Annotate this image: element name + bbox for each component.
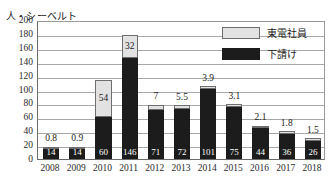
bar-group[interactable]: 140.8 (43, 149, 59, 159)
x-axis-tick-label: 2016 (250, 164, 269, 174)
bar-value-label-tepco-employee: 7 (153, 92, 158, 102)
bar-value-label-subcontractor: 44 (256, 148, 265, 157)
bar-value-label-tepco-employee: 0.8 (45, 134, 57, 144)
x-axis-tick-label: 2013 (172, 164, 191, 174)
y-axis-tick-label: 140 (19, 58, 33, 68)
bar-value-label-tepco-employee: 3.1 (228, 92, 240, 102)
bar-segment-tepco-employee (252, 126, 268, 129)
bar-group[interactable]: 753.1 (226, 105, 242, 159)
bar-value-label-subcontractor: 72 (177, 148, 186, 157)
x-axis-tick-label: 2008 (41, 164, 60, 174)
y-axis-tick-labels: 020406080100120140160180200 (0, 21, 35, 160)
x-axis-tick-label: 2009 (67, 164, 86, 174)
y-axis-tick-label: 160 (19, 44, 33, 54)
bar-value-label-subcontractor: 26 (308, 148, 317, 157)
bar-value-label-subcontractor: 101 (201, 148, 215, 157)
bar-value-label-tepco-employee: 54 (99, 94, 109, 104)
bar-segment-tepco-employee (226, 104, 242, 107)
bar-value-label-subcontractor: 146 (123, 148, 137, 157)
bar-segment-tepco-employee (305, 138, 321, 141)
x-axis-tick-label: 2018 (302, 164, 321, 174)
y-axis-tick-label: 100 (19, 86, 33, 96)
bar-value-label-subcontractor: 75 (230, 148, 239, 157)
bar-value-label-subcontractor: 36 (282, 148, 291, 157)
x-axis-tick-label: 2011 (119, 164, 138, 174)
bar-value-label-tepco-employee: 32 (125, 42, 135, 52)
bar-value-label-subcontractor: 14 (73, 148, 82, 157)
bar-value-label-tepco-employee: 1.5 (307, 126, 319, 136)
legend-item[interactable]: 東電社員 (222, 25, 307, 40)
bar-group[interactable]: 14632 (122, 35, 138, 159)
y-axis-tick-label: 200 (19, 16, 33, 26)
legend-label: 下請け (267, 46, 297, 61)
y-axis-tick-label: 60 (24, 114, 34, 124)
legend-swatch-icon (222, 48, 260, 60)
x-axis-tick-label: 2010 (93, 164, 112, 174)
bar-group[interactable]: 140.9 (69, 149, 85, 159)
y-axis-tick-label: 120 (19, 72, 33, 82)
legend-item[interactable]: 下請け (222, 46, 307, 61)
y-axis-tick-label: 0 (28, 155, 33, 165)
x-axis-tick-label: 2012 (145, 164, 164, 174)
bar-segment-tepco-employee (174, 105, 190, 109)
bar-value-label-tepco-employee: 0.9 (71, 134, 83, 144)
bar-value-label-tepco-employee: 2.1 (255, 113, 267, 123)
y-axis-tick-label: 80 (24, 100, 34, 110)
x-axis-tick-label: 2017 (276, 164, 295, 174)
bar-value-label-subcontractor: 60 (99, 148, 108, 157)
bar-value-label-subcontractor: 71 (151, 148, 160, 157)
y-axis-tick-label: 20 (24, 141, 34, 151)
bar-group[interactable]: 442.1 (252, 127, 268, 159)
bar-group[interactable]: 6054 (95, 80, 111, 159)
y-axis-tick-label: 180 (19, 30, 33, 40)
bar-group[interactable]: 361.8 (279, 133, 295, 159)
legend-label: 東電社員 (267, 25, 307, 40)
bar-group[interactable]: 1013.9 (200, 86, 216, 159)
bar-value-label-subcontractor: 14 (47, 148, 56, 157)
x-axis-tick-labels: 2008200920102011201220132014201520162017… (37, 162, 325, 182)
legend-swatch-icon (222, 27, 260, 39)
bar-value-label-tepco-employee: 1.8 (281, 119, 293, 129)
bar-segment-tepco-employee (279, 131, 295, 134)
bar-group[interactable]: 717 (148, 105, 164, 159)
bar-segment-tepco-employee (148, 105, 164, 110)
x-axis-tick-label: 2014 (198, 164, 217, 174)
bar-value-label-tepco-employee: 5.5 (176, 93, 188, 103)
bar-segment-tepco-employee (200, 86, 216, 89)
stacked-bar-chart: 人・シーベルト 020406080100120140160180200 140.… (0, 0, 333, 193)
bar-group[interactable]: 725.5 (174, 105, 190, 159)
bar-group[interactable]: 261.5 (305, 140, 321, 159)
bar-value-label-tepco-employee: 3.9 (202, 74, 214, 84)
y-axis-tick-label: 40 (24, 127, 34, 137)
bar-segment-subcontractor (122, 58, 138, 159)
chart-legend: 東電社員下請け (222, 25, 307, 67)
x-axis-tick-label: 2015 (224, 164, 243, 174)
